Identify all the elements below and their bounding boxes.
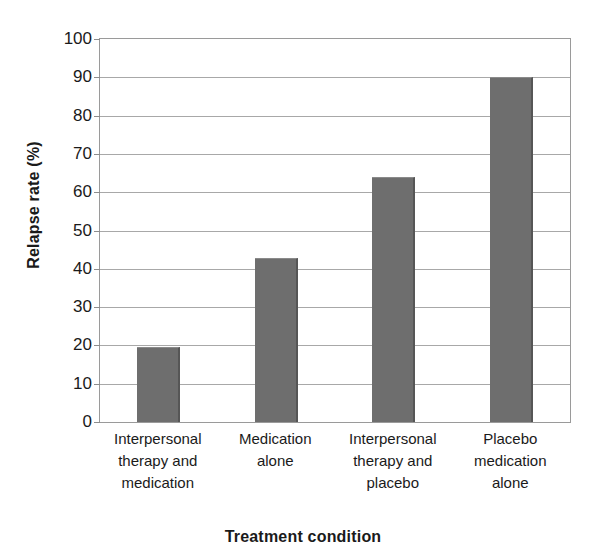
y-tick-label: 30 (48, 298, 92, 315)
y-tick-label: 90 (48, 68, 92, 85)
y-tick-label: 60 (48, 183, 92, 200)
y-tick-label: 100 (48, 30, 92, 47)
bar (137, 347, 180, 422)
y-tick-label: 70 (48, 144, 92, 161)
y-tick-label: 10 (48, 374, 92, 391)
y-tickmark (94, 422, 100, 423)
plot-area (99, 38, 571, 423)
x-tick-label: Medication alone (211, 428, 341, 472)
y-tick-label: 50 (48, 221, 92, 238)
y-tick-label: 80 (48, 106, 92, 123)
y-tick-label: 40 (48, 259, 92, 276)
x-axis-tick-labels: Interpersonal therapy and medicationMedi… (99, 428, 569, 508)
x-tick-label: Interpersonal therapy and placebo (328, 428, 458, 493)
x-axis-title: Treatment condition (0, 528, 606, 546)
x-tick-label: Interpersonal therapy and medication (93, 428, 223, 493)
x-tick-label: Placebo medication alone (446, 428, 576, 493)
bar-chart: Relapse rate (%) 1009080706050403020100 … (0, 0, 606, 560)
bar (255, 258, 298, 422)
y-tick-label: 0 (48, 413, 92, 430)
y-axis-title: Relapse rate (%) (25, 105, 43, 305)
bars-group (100, 39, 570, 422)
bar (372, 177, 415, 422)
bar (490, 77, 533, 422)
y-tick-label: 20 (48, 336, 92, 353)
y-axis-tick-labels: 1009080706050403020100 (48, 38, 92, 421)
